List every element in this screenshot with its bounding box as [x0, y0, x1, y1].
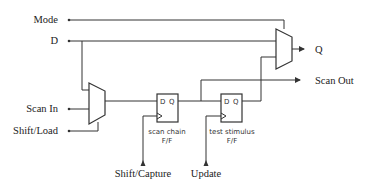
update-label: Update: [191, 168, 222, 179]
shift-capture-wire: [143, 116, 157, 165]
test-stimulus-ff-q: Q: [233, 98, 239, 106]
d-to-input-mux-wire: [82, 41, 89, 90]
mode-label: Mode: [34, 14, 59, 25]
q-label: Q: [315, 44, 323, 55]
scan-chain-caption-1: scan chain: [148, 128, 185, 136]
boundary-scan-diagram: Mode D Scan In Shift/Load D Q scan chain…: [0, 0, 368, 190]
test-stimulus-ff-d: D: [224, 98, 229, 106]
scan-chain-caption-2: F/F: [162, 137, 172, 145]
shift-capture-arrow-icon: [141, 160, 146, 166]
mode-wire: [69, 20, 284, 29]
update-wire: [206, 116, 221, 165]
output-mux: [276, 29, 292, 69]
scan-chain-ff-d: D: [160, 98, 165, 106]
d-label: D: [50, 35, 58, 46]
scan-out-wire: [201, 80, 300, 101]
shift-capture-label: Shift/Capture: [115, 168, 172, 179]
test-stimulus-caption-2: F/F: [227, 137, 237, 145]
shift-load-label: Shift/Load: [13, 125, 59, 136]
update-arrow-icon: [204, 160, 209, 166]
test-stimulus-q-wire: [242, 57, 276, 101]
input-mux: [89, 83, 105, 124]
scan-out-label: Scan Out: [315, 75, 354, 86]
test-stimulus-caption-1: test stimulus: [209, 128, 255, 136]
scan-in-label: Scan In: [26, 103, 59, 114]
shift-load-wire: [69, 122, 98, 131]
scan-chain-ff-q: Q: [169, 98, 175, 106]
